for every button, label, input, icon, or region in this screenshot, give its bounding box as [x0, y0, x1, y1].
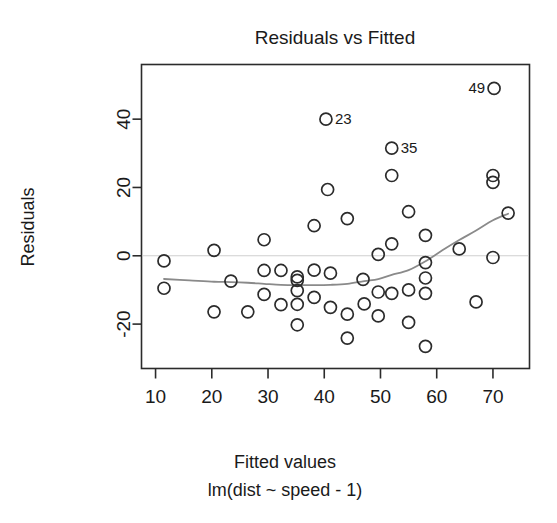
x-tick-label: 10	[145, 386, 166, 407]
point-label: 35	[401, 139, 418, 156]
x-tick-label: 50	[370, 386, 391, 407]
point-label: 23	[335, 110, 352, 127]
y-tick-label: -20	[113, 310, 134, 337]
chart-canvas: Residuals vs Fitted -2002040 10203040506…	[0, 0, 557, 523]
x-tick-label: 60	[426, 386, 447, 407]
x-tick-label: 30	[257, 386, 278, 407]
y-tick-label: 0	[113, 250, 134, 261]
model-formula-label: lm(dist ~ speed - 1)	[208, 480, 363, 500]
y-axis-label: Residuals	[18, 187, 38, 266]
y-tick-label: 40	[113, 109, 134, 130]
x-tick-label: 20	[201, 386, 222, 407]
chart-title: Residuals vs Fitted	[255, 27, 416, 48]
y-tick-label: 20	[113, 177, 134, 198]
residual-plot-figure: Residuals vs Fitted -2002040 10203040506…	[0, 0, 557, 523]
point-label: 49	[468, 79, 485, 96]
x-tick-label: 40	[314, 386, 335, 407]
x-axis-label: Fitted values	[234, 452, 336, 472]
x-tick-label: 70	[482, 386, 503, 407]
